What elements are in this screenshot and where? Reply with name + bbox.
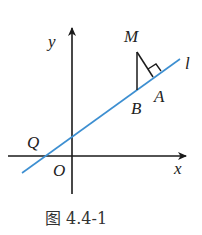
coordinate-diagram: y x O Q M A B l 图 4.4-1 xyxy=(0,0,202,235)
y-axis-label: y xyxy=(46,32,56,51)
point-m-label: M xyxy=(123,27,139,46)
point-a-label: A xyxy=(153,87,165,106)
point-b-label: B xyxy=(131,99,142,118)
x-axis-label: x xyxy=(173,159,182,178)
right-angle-marker xyxy=(148,64,161,71)
figure-caption: 图 4.4-1 xyxy=(45,209,107,228)
point-q-label: Q xyxy=(27,133,39,152)
origin-label: O xyxy=(53,161,65,180)
segment-ma xyxy=(137,52,153,77)
line-l-label: l xyxy=(185,54,190,73)
